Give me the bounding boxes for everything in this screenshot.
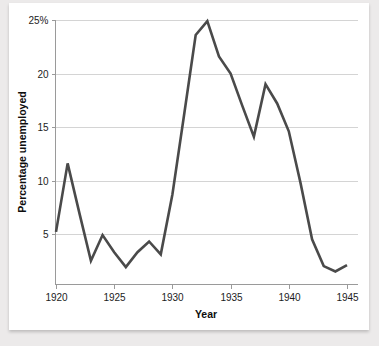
x-tick-label-1945: 1945 [336,292,359,303]
y-tick-label-20: 20 [37,69,49,80]
axes-group [56,20,358,285]
x-tick-label-1930: 1930 [161,292,184,303]
screenshot-root: 510152025% 192019251930193519401945 Year… [0,0,379,346]
x-tick-label-1920: 1920 [45,292,68,303]
x-axis-title: Year [195,308,217,320]
y-tick-group: 510152025% [28,15,55,240]
y-tick-label-10: 10 [37,176,49,187]
y-tick-label-25: 25% [28,15,48,26]
x-tick-group: 192019251930193519401945 [45,285,359,303]
y-tick-label-5: 5 [43,229,49,240]
unemployment-series-line [56,21,347,271]
x-tick-label-1935: 1935 [220,292,243,303]
unemployment-line-chart: 510152025% 192019251930193519401945 Year… [0,0,379,346]
x-tick-label-1925: 1925 [103,292,126,303]
x-tick-label-1940: 1940 [278,292,301,303]
y-tick-label-15: 15 [37,122,49,133]
gridlines-group [56,21,358,235]
y-axis-title: Percentage unemployed [16,91,28,212]
